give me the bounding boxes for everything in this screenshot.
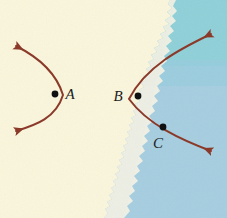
point-c-dot [160,124,167,131]
figure-canvas: A B C [0,0,227,218]
point-c-label: C [153,135,164,151]
point-b-dot [135,93,142,100]
point-a-dot [52,91,59,98]
figure-container: A B C [0,0,227,218]
point-a-label: A [64,86,75,102]
point-b-label: B [113,88,122,104]
